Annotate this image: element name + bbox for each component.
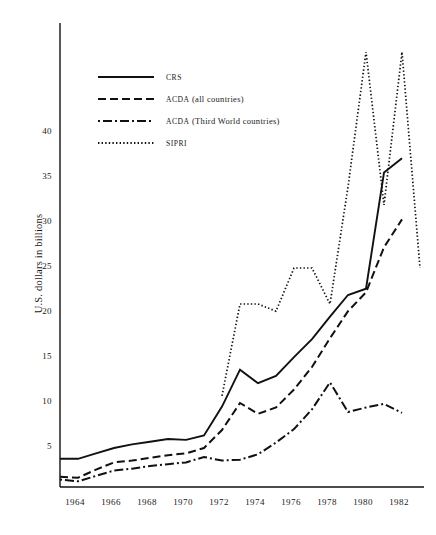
chart-figure: U.S. dollars in billions 10 5 15 20 25 3… — [0, 0, 436, 535]
series-line-crs — [60, 158, 402, 459]
plot-area — [0, 0, 436, 535]
series-lines — [60, 52, 420, 481]
series-line-sipri — [222, 52, 420, 396]
series-line-acda-third-world-countries — [60, 382, 402, 481]
